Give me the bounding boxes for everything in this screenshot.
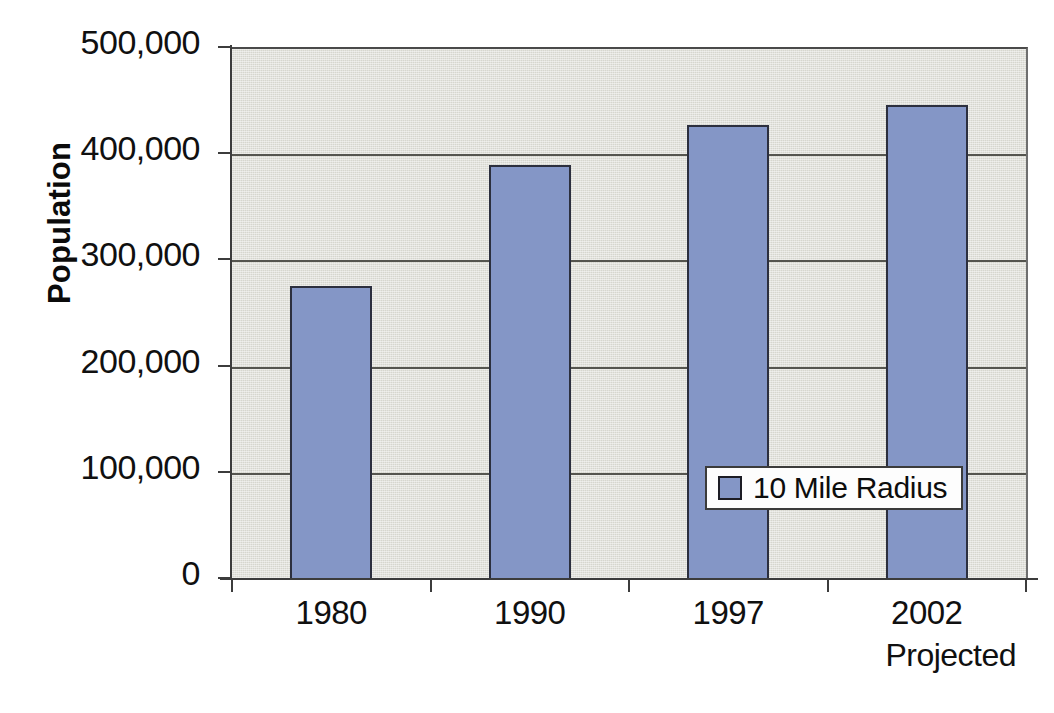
x-axis-tick [231,578,233,592]
x-axis-tick [827,578,829,592]
y-axis-tick-label: 500,000 [0,23,200,62]
legend-label: 10 Mile Radius [753,473,947,503]
y-axis-line [230,45,232,580]
bar[interactable] [290,286,372,580]
x-axis-tick-label: 1980 [231,594,431,632]
chart-legend[interactable]: 10 Mile Radius [705,466,963,510]
population-bar-chart: Population 500,000400,000300,000200,0001… [0,0,1054,713]
y-axis-tick [218,471,232,473]
y-axis-tick-label: 300,000 [0,235,200,274]
y-axis-tick [218,152,232,154]
y-axis-tick [218,258,232,260]
y-axis-tick-label: 0 [0,554,200,593]
legend-swatch-icon [718,476,742,500]
y-axis-tick [218,577,232,579]
bar[interactable] [687,125,769,580]
x-axis-tick-label: 1990 [430,594,630,632]
y-axis-tick [218,365,232,367]
y-axis-tick-label: 200,000 [0,342,200,381]
x-axis-tick-label: 2002 [827,594,1027,632]
x-axis-tick [430,578,432,592]
x-axis-tick-label: 1997 [628,594,828,632]
x-axis-tick [1025,578,1027,592]
x-axis-tick [628,578,630,592]
bar[interactable] [489,165,571,580]
x-axis-tick-sublabel: Projected [831,637,1054,674]
y-axis-tick [218,46,232,48]
y-axis-tick-label: 100,000 [0,448,200,487]
y-axis-tick-label: 400,000 [0,129,200,168]
